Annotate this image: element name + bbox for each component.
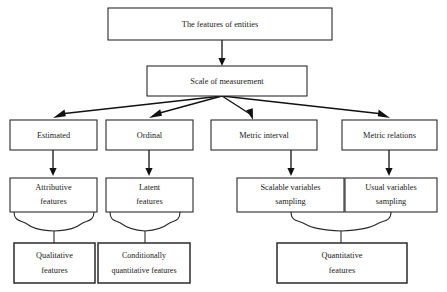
edge-scale-to-estimated xyxy=(53,96,222,118)
node-scalable-variables-sampling-line2: sampling xyxy=(275,197,305,206)
node-quantitative-features[interactable]: Quantitative features xyxy=(277,243,407,283)
node-metric-interval[interactable]: Metric interval xyxy=(211,120,317,150)
edge-metric-interval-to-scalable xyxy=(287,150,294,176)
node-latent-features-line2: features xyxy=(136,197,162,206)
node-qualitative-features[interactable]: Qualitative features xyxy=(14,243,95,283)
node-metric-relations-label: Metric relations xyxy=(363,131,416,140)
node-conditionally-quantitative-features[interactable]: Conditionally quantitative features xyxy=(98,243,190,283)
node-conditionally-quantitative-features-line1: Conditionally xyxy=(122,251,166,260)
node-scalable-variables-sampling[interactable]: Scalable variables sampling xyxy=(237,178,344,212)
flowchart-diagram: The features of entities Scale of measur… xyxy=(0,0,447,292)
node-usual-variables-sampling-line2: sampling xyxy=(376,197,406,206)
node-usual-variables-sampling-line1: Usual variables xyxy=(365,183,416,192)
node-estimated-label: Estimated xyxy=(37,131,71,140)
node-scale-of-measurement-label: Scale of measurement xyxy=(190,77,264,86)
edge-attributive-to-qualitative xyxy=(14,212,94,243)
edge-scale-to-ordinal xyxy=(149,96,222,118)
edge-metric-relations-to-usual xyxy=(385,150,392,176)
edge-scalable-usual-to-quantitative xyxy=(291,212,391,243)
node-latent-features-line1: Latent xyxy=(139,183,161,192)
node-quantitative-features-line2: features xyxy=(329,266,355,275)
edge-root-to-scale xyxy=(218,40,225,66)
edge-latent-to-conditionally xyxy=(110,212,180,243)
edge-ordinal-to-latent xyxy=(145,150,152,176)
node-quantitative-features-line1: Quantitative xyxy=(321,251,362,260)
node-scalable-variables-sampling-line1: Scalable variables xyxy=(260,183,320,192)
node-usual-variables-sampling[interactable]: Usual variables sampling xyxy=(345,178,437,212)
node-attributive-features[interactable]: Attributive features xyxy=(10,178,97,212)
node-ordinal-label: Ordinal xyxy=(137,131,163,140)
node-attributive-features-line1: Attributive xyxy=(35,183,72,192)
edge-estimated-to-attributive xyxy=(49,150,56,176)
node-scale-of-measurement[interactable]: Scale of measurement xyxy=(147,66,307,96)
node-estimated[interactable]: Estimated xyxy=(10,120,97,150)
node-latent-features[interactable]: Latent features xyxy=(106,178,193,212)
node-conditionally-quantitative-features-line2: quantitative features xyxy=(111,266,176,275)
node-ordinal[interactable]: Ordinal xyxy=(106,120,193,150)
node-features-of-entities[interactable]: The features of entities xyxy=(108,8,332,40)
edge-scale-to-metric-relations xyxy=(222,96,390,118)
node-metric-interval-label: Metric interval xyxy=(239,131,289,140)
node-attributive-features-line2: features xyxy=(40,197,66,206)
node-features-of-entities-label: The features of entities xyxy=(182,20,258,29)
node-metric-relations[interactable]: Metric relations xyxy=(342,120,437,150)
node-qualitative-features-line2: features xyxy=(41,266,67,275)
node-qualitative-features-line1: Qualitative xyxy=(36,251,73,260)
